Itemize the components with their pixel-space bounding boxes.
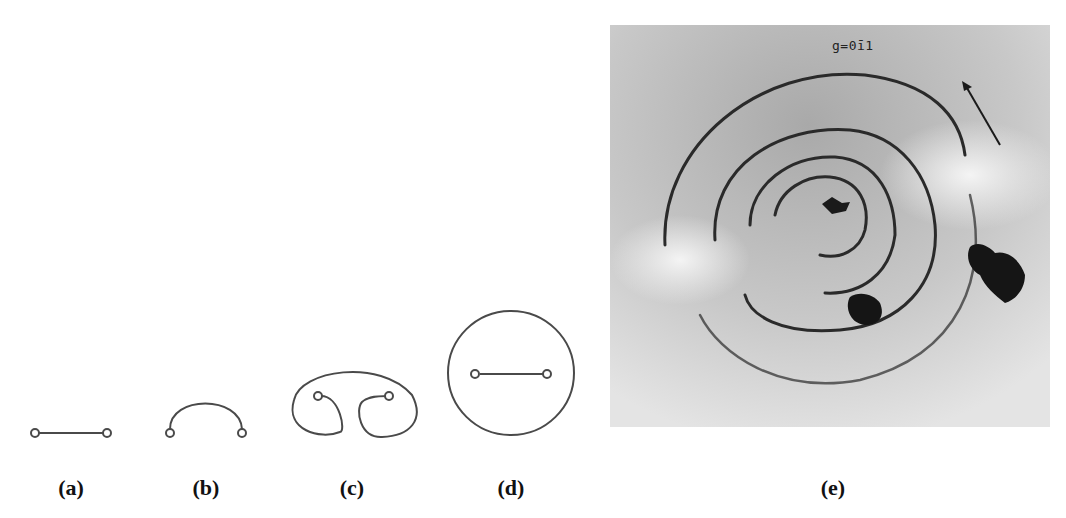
tem-micrograph [610, 25, 1050, 427]
diagram-b [166, 404, 246, 438]
diffraction-vector-annotation: g=0ī1 [832, 38, 874, 53]
label-c: (c) [322, 475, 382, 501]
label-a: (a) [41, 475, 101, 501]
diagram-c [293, 372, 417, 437]
label-e: (e) [803, 475, 863, 501]
label-d: (d) [481, 475, 541, 501]
diagram-a [31, 429, 111, 437]
micrograph-rings [610, 25, 1050, 427]
diagram-d [448, 311, 574, 435]
label-b: (b) [176, 475, 236, 501]
